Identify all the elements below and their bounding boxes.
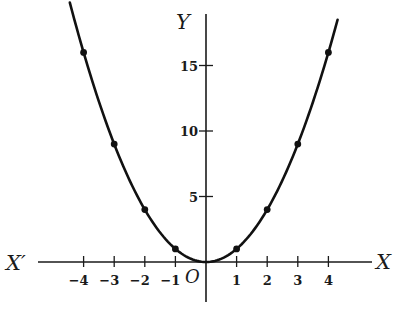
axes [38, 14, 372, 302]
x-tick-label: 1 [232, 273, 241, 288]
x-tick-label: 3 [293, 273, 302, 288]
y-axis-label: Y [176, 10, 192, 34]
x-tick-label: −1 [160, 273, 180, 288]
origin-label: O [185, 266, 200, 287]
y-axis-ticks: 51015 [180, 59, 213, 205]
y-tick-label: 5 [189, 190, 198, 205]
data-point [141, 206, 148, 213]
data-point [111, 141, 118, 148]
x-tick-label: −4 [69, 273, 89, 288]
data-point [264, 206, 271, 213]
parabola-graph: −4−3−2−11234 51015 X′ X Y O [0, 0, 400, 329]
data-point [172, 246, 179, 253]
x-tick-label: −3 [99, 273, 119, 288]
data-point [80, 49, 87, 56]
y-tick-label: 15 [180, 59, 198, 74]
x-tick-label: 2 [263, 273, 272, 288]
data-point [233, 246, 240, 253]
x-axis-negative-label: X′ [4, 251, 26, 275]
y-tick-label: 10 [180, 124, 198, 139]
data-point [325, 49, 332, 56]
data-point [294, 141, 301, 148]
x-tick-label: 4 [324, 273, 333, 288]
parabola-curve [70, 3, 338, 262]
x-tick-label: −2 [130, 273, 150, 288]
x-axis-label: X [374, 250, 392, 274]
